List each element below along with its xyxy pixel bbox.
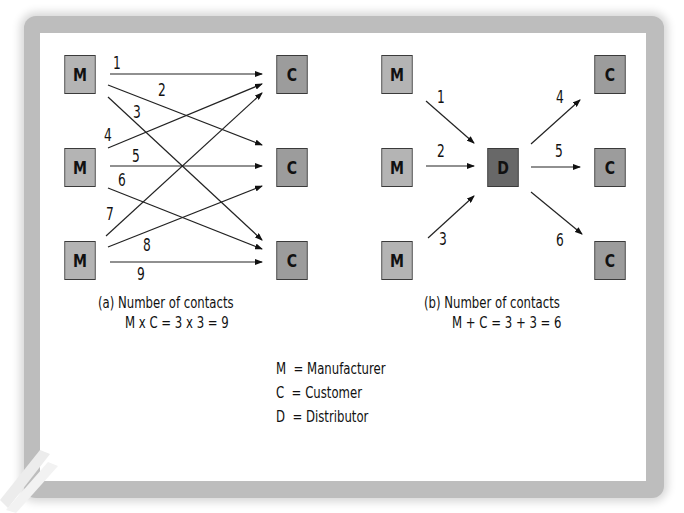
legend-label: = Distributor bbox=[292, 408, 368, 426]
caption-b-formula: M + C = 3 + 3 = 6 bbox=[452, 314, 562, 333]
connection-arrows bbox=[0, 0, 684, 513]
legend-label: = Manufacturer bbox=[294, 360, 386, 378]
manufacturer-box: M bbox=[381, 148, 412, 187]
contact-number: 7 bbox=[106, 206, 114, 223]
caption-b-title: (b) Number of contacts bbox=[424, 294, 560, 313]
manufacturer-box: M bbox=[381, 55, 412, 94]
manufacturer-box: M bbox=[64, 241, 95, 280]
contact-number: 8 bbox=[143, 237, 151, 254]
contact-number: 1 bbox=[113, 55, 121, 72]
caption-a-title: (a) Number of contacts bbox=[98, 294, 234, 313]
contact-number: 2 bbox=[437, 143, 445, 160]
legend-item-customer: C = Customer bbox=[276, 384, 362, 403]
manufacturer-box: M bbox=[64, 55, 95, 94]
b-contact-line-1 bbox=[426, 101, 474, 143]
caption-a-formula: M x C = 3 x 3 = 9 bbox=[125, 314, 229, 333]
contact-number: 5 bbox=[132, 148, 140, 165]
contact-number: 3 bbox=[133, 104, 141, 121]
contact-number: 2 bbox=[158, 82, 166, 99]
customer-box: C bbox=[276, 55, 307, 94]
customer-box: C bbox=[276, 241, 307, 280]
manufacturer-box: M bbox=[64, 148, 95, 187]
contact-number: 1 bbox=[437, 89, 445, 106]
manufacturer-box: M bbox=[381, 241, 412, 280]
legend-item-distributor: D = Distributor bbox=[276, 408, 368, 427]
legend-key: M bbox=[276, 360, 286, 378]
legend-label: = Customer bbox=[292, 384, 362, 402]
b-contact-line-3 bbox=[428, 196, 474, 238]
b-contact-line-6 bbox=[531, 192, 582, 234]
distributor-box: D bbox=[487, 148, 518, 187]
customer-box: C bbox=[594, 55, 625, 94]
customer-box: C bbox=[594, 241, 625, 280]
contact-number: 4 bbox=[556, 89, 564, 106]
contact-number: 3 bbox=[439, 231, 447, 248]
legend-item-manufacturer: M = Manufacturer bbox=[276, 360, 385, 379]
legend-key: C bbox=[276, 384, 284, 402]
contact-number: 5 bbox=[555, 143, 563, 160]
customer-box: C bbox=[594, 148, 625, 187]
contact-number: 6 bbox=[118, 172, 126, 189]
legend-key: D bbox=[276, 408, 285, 426]
contact-number: 9 bbox=[137, 266, 145, 283]
customer-box: C bbox=[276, 148, 307, 187]
contact-number: 6 bbox=[556, 232, 564, 249]
contact-line-8 bbox=[108, 186, 262, 247]
contact-number: 4 bbox=[104, 127, 112, 144]
